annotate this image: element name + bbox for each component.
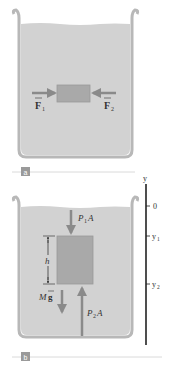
svg-text:A: A <box>87 213 94 223</box>
badge-a-label: a <box>24 169 28 176</box>
axis-label-y: y <box>143 174 147 183</box>
panel-a-caption: a <box>12 167 135 176</box>
buoyancy-diagram: F 1 F 2 a P 1 A P 2 <box>0 0 171 371</box>
panel-b-caption: b <box>12 352 162 361</box>
svg-text:g: g <box>48 292 53 302</box>
label-mg: M g <box>38 291 54 302</box>
svg-text:A: A <box>96 308 103 318</box>
tick-y1: y <box>152 232 156 241</box>
svg-text:1: 1 <box>84 218 87 224</box>
svg-text:2: 2 <box>111 106 114 112</box>
svg-text:P: P <box>86 308 93 318</box>
svg-text:1: 1 <box>42 106 45 112</box>
panel-b: P 1 A P 2 A M g h <box>12 174 162 361</box>
beaker-a <box>13 10 137 157</box>
panel-a: F 1 F 2 a <box>12 10 138 176</box>
svg-text:2: 2 <box>93 313 96 319</box>
svg-text:1: 1 <box>157 236 160 242</box>
svg-text:F: F <box>35 100 41 111</box>
badge-b-label: b <box>24 354 28 361</box>
block-a <box>57 85 90 102</box>
svg-text:M: M <box>38 292 47 302</box>
label-h: h <box>45 256 50 266</box>
svg-text:F: F <box>104 100 110 111</box>
tick-y2: y <box>152 280 156 289</box>
svg-text:2: 2 <box>157 284 160 290</box>
tick-0: 0 <box>153 202 157 211</box>
block-b <box>57 236 93 284</box>
y-axis: y 0 y 1 y 2 <box>143 174 160 345</box>
svg-text:P: P <box>77 213 84 223</box>
